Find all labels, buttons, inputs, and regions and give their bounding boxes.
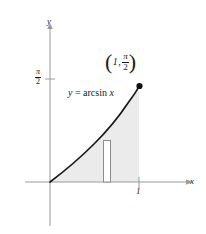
axis-label-x: x (190, 177, 194, 186)
fraction-denominator: 2 (35, 78, 41, 86)
equation-function: arcsin (83, 87, 107, 98)
representative-rectangle (104, 141, 111, 183)
endpoint-dot (136, 83, 142, 89)
shaded-region (50, 86, 139, 182)
pi-over-two-fraction: π 2 (35, 68, 41, 86)
x-tick-label-one: 1 (136, 187, 141, 196)
close-paren: ) (129, 54, 136, 70)
equation-argument: x (109, 87, 113, 98)
curve-equation-label: y = arcsin x (68, 88, 114, 98)
arcsin-figure: y x 1 π 2 y = arcsin x ( 1 , π 2 ) (0, 0, 206, 234)
open-paren: ( (105, 54, 112, 70)
fraction-numerator: π (35, 68, 41, 76)
point-coordinate-label: ( 1 , π 2 ) (105, 52, 136, 72)
figure-canvas (0, 0, 206, 234)
y-tick-label-pi-over-two: π 2 (31, 68, 45, 86)
axis-label-y: y (47, 17, 51, 26)
